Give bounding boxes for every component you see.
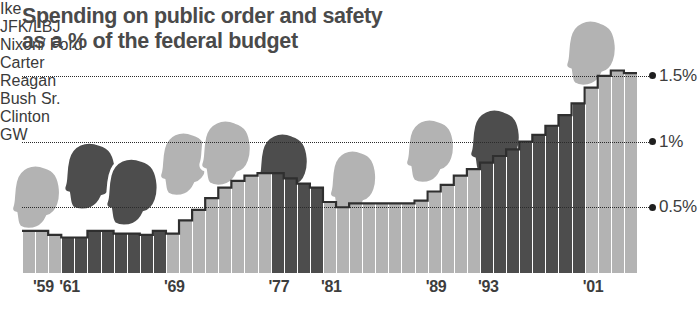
gridline-0.5% [22,207,649,208]
bar-1989 [428,191,441,273]
x-axis-label-69: '69 [164,278,185,296]
bar-series [22,60,637,273]
bar-1960 [48,235,61,273]
bar-1979 [297,184,310,273]
axis-marker-1% [649,138,656,145]
bar-1978 [284,178,297,273]
bar-1974 [231,181,244,273]
bar-1993 [480,163,493,273]
bar-1966 [127,234,140,273]
x-axis-label-81: '81 [321,278,342,296]
axis-marker-0.5% [649,204,656,211]
bar-1964 [101,231,114,273]
bar-1991 [454,176,467,273]
bar-1998 [545,126,558,273]
bar-1973 [218,188,231,273]
bar-1962 [74,238,87,274]
gridline-1.5% [22,76,649,77]
chart-title: Spending on public order and safety as a… [22,4,462,53]
bar-1961 [61,238,74,274]
bar-1976 [258,173,271,273]
x-axis-label-59: '59 [33,278,54,296]
bar-1959 [35,231,48,273]
bar-1969 [166,234,179,273]
bar-1994 [493,156,506,273]
bar-1977 [271,173,284,273]
bar-1980 [310,188,323,273]
x-axis-label-89: '89 [426,278,447,296]
x-axis-label-01: '01 [583,278,604,296]
bar-1965 [114,234,127,273]
bar-1990 [441,185,454,273]
bar-1968 [153,231,166,273]
x-axis-label-93: '93 [478,278,499,296]
bar-1981 [323,202,336,273]
bar-1992 [467,169,480,273]
x-axis-label-61: '61 [59,278,80,296]
bar-1963 [87,231,100,273]
bar-2002 [598,76,611,273]
bar-1971 [192,210,205,273]
bar-1982 [336,207,349,273]
bar-1984 [362,203,375,273]
bar-1986 [388,203,401,273]
bar-2003 [611,71,624,273]
bar-1967 [140,235,153,273]
bar-2004 [624,73,637,273]
y-axis-label-1.5%: 1.5% [659,66,697,86]
chart-container: Spending on public order and safety as a… [0,0,699,325]
bar-1988 [415,201,428,273]
x-axis-label-77: '77 [269,278,290,296]
bar-1999 [558,115,571,273]
gridline-1% [22,142,649,143]
bar-1997 [532,135,545,273]
bar-1972 [205,198,218,273]
bar-1970 [179,220,192,273]
bar-2000 [572,103,585,273]
bar-1958 [22,231,35,273]
bar-2001 [585,88,598,273]
bar-1987 [401,203,414,273]
bar-1985 [375,203,388,273]
y-axis-label-0.5%: 0.5% [659,197,697,217]
bar-1995 [506,149,519,273]
y-axis-label-1%: 1% [659,132,683,152]
plot-area [22,60,637,273]
bar-1983 [349,203,362,273]
bar-1975 [244,176,257,273]
